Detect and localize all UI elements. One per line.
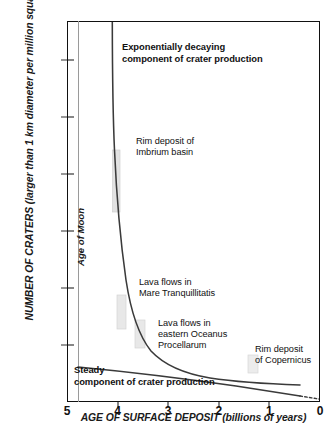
annotation-exponential-component: Exponentially decaying component of crat… <box>122 41 263 65</box>
annotation-imbrium-basin: Rim deposit of Imbrium basin <box>136 136 194 158</box>
annotation-mare-tranquillitatis: Lava flows in Mare Tranquillitatis <box>139 277 215 299</box>
data-box-tranquillitatis <box>117 295 126 329</box>
crater-production-chart: · · · 60,000 50,000 40,000 30,000 20,000… <box>0 0 336 426</box>
annotation-copernicus: Rim deposit of Copernicus <box>255 344 311 366</box>
annotation-steady-component: Steady component of crater production <box>74 364 215 388</box>
steady-production-line-dashed-tail <box>300 396 319 399</box>
annotation-oceanus-procellarum: Lava flows in eastern Oceanus Procellaru… <box>158 318 227 352</box>
